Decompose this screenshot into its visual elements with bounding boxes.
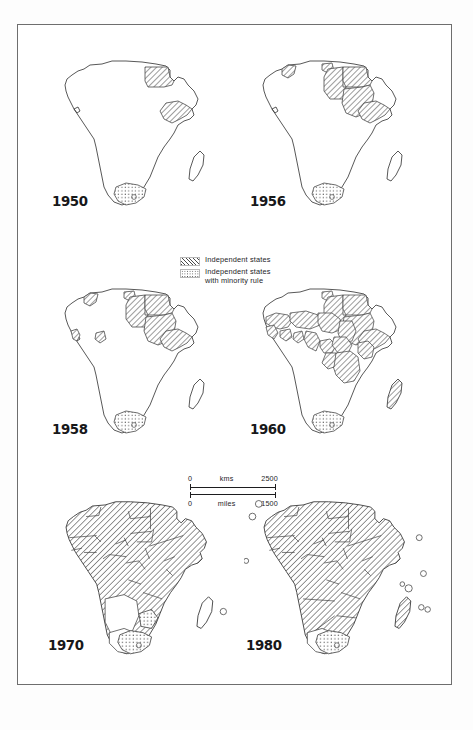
scale-labels-km: 0 kms 2500 [188,474,278,483]
year-label-1960: 1960 [250,421,286,437]
scale-km-min: 0 [188,474,192,483]
scale-km-max: 2500 [261,474,278,483]
year-label-1970: 1970 [48,637,84,653]
year-label-1958: 1958 [52,421,88,437]
hatch-swatch-icon [180,257,200,266]
year-label-1956: 1956 [250,193,286,209]
legend-label-independent: Independent states [205,255,271,264]
region-south-africa [316,631,350,654]
island-states-1970 [220,608,226,614]
legend-item-independent: Independent states [180,255,320,266]
region-south-africa [114,411,146,433]
year-label-1950: 1950 [52,193,88,209]
region-south-africa [312,411,344,433]
year-label-1980: 1980 [246,637,282,653]
region-south-africa [114,183,146,205]
scale-km-unit: kms [218,474,236,483]
region-south-africa [118,631,152,654]
figure-frame: 1950 1956 Inde [17,24,452,685]
region-south-africa [312,183,344,205]
